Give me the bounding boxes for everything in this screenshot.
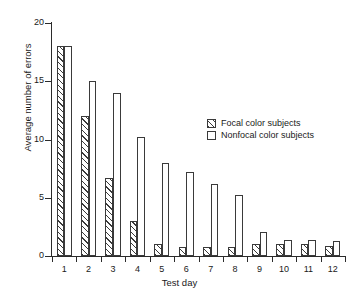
x-tick-4	[125, 257, 126, 262]
y-tick-5	[45, 198, 51, 199]
bar-focal-day-10	[276, 244, 284, 256]
y-tick-label-5: 5	[4, 193, 44, 202]
x-tick-6	[174, 257, 175, 262]
bar-focal-day-5	[154, 244, 162, 256]
y-tick-15	[45, 81, 51, 82]
bar-focal-day-8	[228, 247, 236, 256]
bar-nonfocal-day-2	[89, 81, 97, 256]
chart-legend: Focal color subjects Nonfocal color subj…	[207, 117, 314, 141]
bar-nonfocal-day-4	[137, 137, 145, 256]
legend-item-focal: Focal color subjects	[207, 117, 314, 129]
y-tick-0	[45, 256, 51, 257]
y-tick-20	[45, 23, 51, 24]
y-axis-label: Average number of errors	[22, 28, 33, 168]
bar-focal-day-9	[252, 244, 260, 256]
bar-focal-day-6	[179, 247, 187, 256]
bar-nonfocal-day-3	[113, 93, 121, 256]
x-tick-end	[345, 257, 346, 262]
bar-nonfocal-day-10	[284, 240, 292, 256]
legend-swatch-nonfocal-icon	[207, 131, 216, 140]
x-tick-label-12: 12	[318, 264, 348, 274]
bar-chart-figure: 05101520 123456789101112 Average number …	[0, 0, 359, 298]
y-tick-label-0: 0	[4, 251, 44, 260]
y-tick-10	[45, 140, 51, 141]
bar-nonfocal-day-7	[211, 184, 219, 256]
x-tick-9	[247, 257, 248, 262]
bar-nonfocal-day-6	[186, 172, 194, 256]
x-tick-10	[272, 257, 273, 262]
x-tick-1	[52, 257, 53, 262]
x-tick-7	[199, 257, 200, 262]
bar-focal-day-12	[325, 246, 333, 256]
bar-focal-day-3	[105, 178, 113, 256]
y-tick-label-20: 20	[4, 18, 44, 27]
bar-focal-day-2	[81, 116, 89, 256]
bar-nonfocal-day-1	[64, 46, 72, 256]
x-axis-label: Test day	[0, 277, 359, 288]
bar-nonfocal-day-5	[162, 163, 170, 256]
x-tick-3	[101, 257, 102, 262]
legend-item-nonfocal: Nonfocal color subjects	[207, 129, 314, 141]
bar-nonfocal-day-9	[260, 232, 268, 256]
legend-label-nonfocal: Nonfocal color subjects	[221, 129, 314, 141]
bar-nonfocal-day-11	[308, 240, 316, 256]
x-tick-12	[321, 257, 322, 262]
bar-focal-day-4	[130, 221, 138, 256]
bar-focal-day-11	[301, 244, 309, 256]
x-tick-5	[150, 257, 151, 262]
x-tick-2	[76, 257, 77, 262]
bar-nonfocal-day-8	[235, 195, 243, 256]
legend-label-focal: Focal color subjects	[221, 117, 301, 129]
x-tick-11	[296, 257, 297, 262]
legend-swatch-focal-icon	[207, 119, 216, 128]
bar-nonfocal-day-12	[333, 241, 341, 256]
bar-focal-day-7	[203, 247, 211, 256]
bar-focal-day-1	[57, 46, 65, 256]
x-tick-8	[223, 257, 224, 262]
